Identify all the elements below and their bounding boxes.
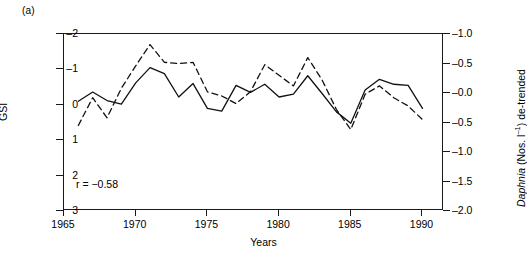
- x-axis-title: Years: [0, 236, 527, 248]
- x-tick-mark: [350, 210, 351, 216]
- series-canvas: [64, 34, 444, 211]
- x-tick-label: 1990: [396, 218, 446, 230]
- y-right-tick-label: –0.5: [452, 57, 492, 69]
- x-tick-mark: [63, 210, 64, 216]
- x-tick-mark: [206, 210, 207, 216]
- figure-panel-a: (a) –2–10123 –1.0–0.5–0.0–0.5–1.0–1.5–2.…: [0, 0, 527, 261]
- y-axis-right-title-exponent: –1: [513, 126, 522, 134]
- x-tick-label: 1965: [38, 218, 88, 230]
- y-left-tick-label: 1: [38, 133, 78, 145]
- y-axis-right-title-unit: (Nos. l: [515, 135, 527, 168]
- x-tick-mark: [421, 210, 422, 216]
- y-axis-right-title-tail: ) de-trended: [515, 69, 527, 126]
- series-line-daphnia: [78, 45, 422, 130]
- x-tick-mark: [278, 210, 279, 216]
- y-right-tick-label: –0.0: [452, 86, 492, 98]
- x-tick-label: 1985: [325, 218, 375, 230]
- y-right-tick-mark: [443, 122, 450, 123]
- y-right-tick-mark: [443, 92, 450, 93]
- y-left-tick-label: 2: [38, 169, 78, 181]
- x-tick-label: 1980: [253, 218, 303, 230]
- correlation-annotation: r = −0.58: [76, 178, 118, 190]
- plot-area: [63, 33, 443, 210]
- x-tick-label: 1970: [110, 218, 160, 230]
- y-axis-right-title-genus: Daphnia: [515, 168, 527, 207]
- x-tick-mark: [135, 210, 136, 216]
- y-left-tick-label: –2: [38, 27, 78, 39]
- y-axis-right-title: Daphnia (Nos. l–1) de-trended: [513, 69, 527, 207]
- y-right-tick-mark: [443, 33, 450, 34]
- y-right-tick-label: –1.0: [452, 27, 492, 39]
- y-axis-left-title: GSI: [0, 103, 9, 121]
- y-right-tick-label: –1.0: [452, 145, 492, 157]
- y-right-tick-mark: [443, 151, 450, 152]
- y-right-tick-label: –0.5: [452, 116, 492, 128]
- x-tick-label: 1975: [181, 218, 231, 230]
- y-left-tick-label: –1: [38, 62, 78, 74]
- y-right-tick-mark: [443, 210, 450, 211]
- y-right-tick-label: –1.5: [452, 175, 492, 187]
- y-left-tick-label: 0: [38, 98, 78, 110]
- panel-label: (a): [22, 5, 35, 16]
- y-right-tick-mark: [443, 181, 450, 182]
- y-right-tick-label: –2.0: [452, 204, 492, 216]
- y-right-tick-mark: [443, 63, 450, 64]
- y-left-tick-label: 3: [38, 204, 78, 216]
